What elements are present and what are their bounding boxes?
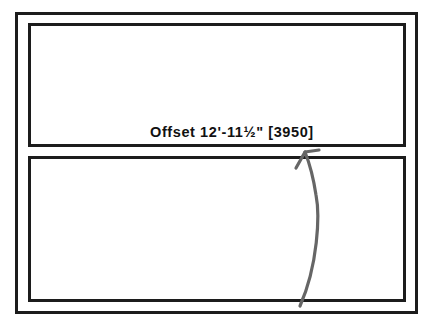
arrow-up-icon [0,0,430,319]
